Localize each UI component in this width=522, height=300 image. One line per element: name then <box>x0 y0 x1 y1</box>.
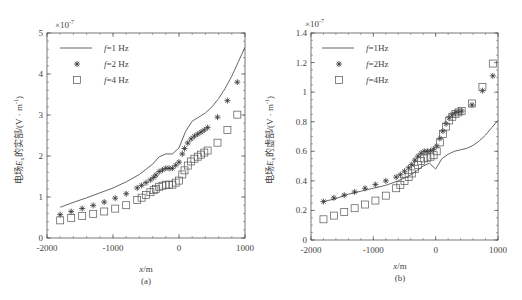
square-marker <box>143 191 150 198</box>
asterisk-marker <box>352 189 358 195</box>
asterisk-marker <box>123 191 129 197</box>
axis-ticks: 012345-2000-100001000 <box>37 28 255 253</box>
asterisk-marker <box>341 192 347 198</box>
asterisk-marker <box>205 125 211 131</box>
asterisk-marker <box>90 202 96 208</box>
asterisk-marker <box>143 180 149 186</box>
asterisk-marker <box>224 98 230 104</box>
asterisk-marker <box>383 178 389 184</box>
asterisk-marker <box>437 135 443 141</box>
asterisk-marker <box>176 159 182 165</box>
asterisk-marker <box>234 79 240 85</box>
panel-b-imaginary-part: 00.20.40.60.811.21.4-2000-100001000 f=1H… <box>264 18 508 283</box>
x-axis-title: x/m <box>138 264 153 274</box>
asterisk-marker <box>490 73 496 79</box>
series-line <box>60 47 245 207</box>
square-marker <box>330 212 337 219</box>
legend-label: f=4 Hz <box>104 75 129 85</box>
square-marker <box>234 111 241 118</box>
asterisk-marker <box>320 199 326 205</box>
y-axis-title: 电场Ex的虚部/(V · m-1) <box>264 96 276 184</box>
y-tick-label: 0 <box>39 233 44 243</box>
square-marker <box>57 217 64 224</box>
series-asterisk <box>57 79 240 217</box>
asterisk-marker <box>68 209 74 215</box>
x-tick-label: -1000 <box>363 245 384 255</box>
square-marker <box>90 210 97 217</box>
square-marker <box>382 192 389 199</box>
y-tick-label: 5 <box>39 28 44 38</box>
y-tick-label: 1.2 <box>296 58 307 68</box>
asterisk-marker <box>112 195 118 201</box>
square-marker <box>351 205 358 212</box>
asterisk-marker <box>362 185 368 191</box>
y-multiplier: ×10-7 <box>55 19 74 30</box>
asterisk-marker <box>101 199 107 205</box>
x-tick-label: -1000 <box>103 243 124 253</box>
y-multiplier: ×10-7 <box>305 18 324 29</box>
square-marker <box>123 202 130 209</box>
panel-a-real-part: 012345-2000-100001000 f=1 Hzf=2 Hzf=4 Hz… <box>13 19 255 286</box>
square-marker <box>372 197 379 204</box>
y-tick-label: 0.4 <box>296 176 308 186</box>
square-marker <box>224 127 231 134</box>
asterisk-marker <box>182 145 188 151</box>
asterisk-marker <box>409 162 415 168</box>
asterisk-marker <box>185 140 191 146</box>
x-tick-label: 1000 <box>489 245 508 255</box>
square-marker <box>214 139 221 146</box>
x-axis-title: x/m <box>392 261 407 271</box>
asterisk-marker <box>139 182 145 188</box>
series-square <box>320 60 496 223</box>
y-tick-label: 0.6 <box>296 146 308 156</box>
square-marker <box>134 197 141 204</box>
y-tick-label: 1 <box>39 192 44 202</box>
asterisk-marker <box>397 172 403 178</box>
square-marker <box>401 177 408 184</box>
x-tick-label: -2000 <box>37 243 58 253</box>
legend: f=1Hzf=2Hzf=4Hz <box>322 43 389 85</box>
x-tick-label: 0 <box>433 245 438 255</box>
y-tick-label: 1 <box>303 87 308 97</box>
asterisk-marker <box>79 205 85 211</box>
y-tick-label: 0.2 <box>296 205 307 215</box>
square-marker <box>489 60 496 67</box>
data-series <box>57 47 245 224</box>
legend: f=1 Hzf=2 Hzf=4 Hz <box>60 43 129 85</box>
asterisk-marker <box>147 177 153 183</box>
square-marker <box>341 208 348 215</box>
square-marker <box>112 205 119 212</box>
y-tick-label: 3 <box>39 110 44 120</box>
x-tick-label: 0 <box>177 243 182 253</box>
square-marker <box>74 77 81 84</box>
series-asterisk <box>320 73 495 205</box>
square-marker <box>138 194 145 201</box>
panel-caption: (a) <box>141 276 151 286</box>
series-line <box>323 120 498 201</box>
square-marker <box>79 212 86 219</box>
asterisk-marker <box>74 61 80 67</box>
asterisk-marker <box>134 185 140 191</box>
panel-caption: (b) <box>395 273 406 283</box>
y-tick-label: 4 <box>39 69 44 79</box>
data-series <box>320 60 498 223</box>
asterisk-marker <box>372 182 378 188</box>
axis-ticks: 00.20.40.60.811.21.4-2000-100001000 <box>296 28 508 255</box>
y-axis-title: 电场Ex的实部/(V · m-1) <box>13 96 25 184</box>
y-tick-label: 1.4 <box>296 28 308 38</box>
legend-label: f=1Hz <box>366 43 389 53</box>
square-marker <box>362 201 369 208</box>
asterisk-marker <box>440 128 446 134</box>
square-marker <box>101 208 108 215</box>
legend-label: f=2 Hz <box>104 59 129 69</box>
asterisk-marker <box>188 136 194 142</box>
y-tick-label: 2 <box>39 151 44 161</box>
asterisk-marker <box>331 195 337 201</box>
asterisk-marker <box>215 114 221 120</box>
y-tick-label: 0.8 <box>296 117 308 127</box>
square-marker <box>68 214 75 221</box>
asterisk-marker <box>336 61 342 67</box>
chart-figure: 012345-2000-100001000 f=1 Hzf=2 Hzf=4 Hz… <box>0 0 522 300</box>
asterisk-marker <box>412 157 418 163</box>
legend-label: f=4Hz <box>366 75 389 85</box>
